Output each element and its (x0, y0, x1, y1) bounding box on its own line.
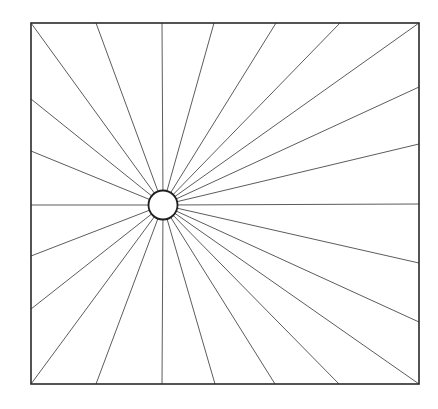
square-frame (31, 23, 419, 384)
spoke-line (163, 23, 214, 205)
spoke-line (163, 23, 276, 205)
spoke-line (31, 205, 163, 256)
spoke-line (163, 204, 419, 205)
radial-diagram (0, 0, 438, 409)
spoke-line (162, 205, 163, 384)
spoke-line (163, 23, 419, 205)
center-circle (149, 191, 178, 220)
spoke-line (163, 205, 419, 384)
spoke-line (163, 205, 419, 322)
spoke-line (163, 87, 419, 205)
diagram-svg (0, 0, 438, 409)
spoke-line (163, 23, 340, 205)
spoke-line (163, 144, 419, 205)
spokes-group (31, 23, 419, 384)
spoke-line (162, 23, 163, 205)
spoke-line (163, 205, 275, 384)
spoke-line (163, 205, 419, 263)
spoke-line (31, 205, 163, 384)
